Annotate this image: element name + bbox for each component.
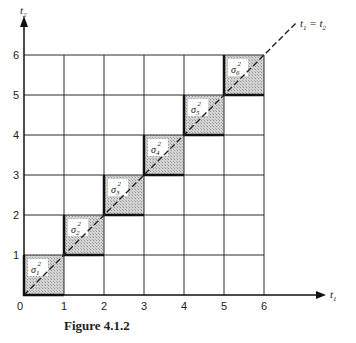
diagonal-line [24,23,296,295]
y-tick: 4 [13,129,19,141]
y-tick: 1 [13,249,19,261]
y-tick: 6 [13,49,19,61]
variance-labels: σ12 σ22 σ32 σ42 σ52 σ62 [31,60,241,277]
x-tick: 3 [141,300,147,312]
x-axis-arrow-icon [316,291,326,299]
y-tick: 5 [13,89,19,101]
x-tick: 0 [17,300,23,312]
x-tick: 6 [261,300,267,312]
y-tick-labels: 1 2 3 4 5 6 [13,49,19,261]
diagonal-label: t1 = t2 [300,17,327,32]
x-tick: 4 [181,300,187,312]
y-axis-label: t2 [20,4,27,19]
y-tick: 3 [13,169,19,181]
x-tick: 1 [61,300,67,312]
figure-caption: Figure 4.1.2 [64,318,130,334]
x-tick-labels: 0 1 2 3 4 5 6 [17,300,267,312]
label-boxes [28,59,248,276]
x-axis-label: t1 [330,288,337,303]
x-tick: 5 [221,300,227,312]
figure-diagram: t2 t1 t1 = t2 0 1 2 3 4 5 6 1 2 3 4 5 6 … [0,0,356,343]
x-tick: 2 [101,300,107,312]
y-tick: 2 [13,209,19,221]
